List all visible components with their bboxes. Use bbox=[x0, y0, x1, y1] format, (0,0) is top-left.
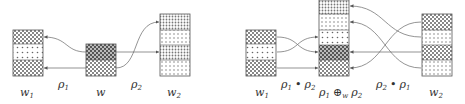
label-w2: w2 bbox=[167, 86, 181, 100]
label-rho1: ρ1 bbox=[57, 78, 69, 92]
label-w: w bbox=[96, 86, 106, 99]
label-rho1-bullet-rho2: ρ1•ρ2 bbox=[280, 78, 316, 92]
label-w1: w1 bbox=[20, 86, 34, 100]
box-w2-right bbox=[422, 14, 452, 76]
arrow-w2-b bbox=[350, 6, 421, 37]
label-rho2: ρ2 bbox=[130, 78, 142, 92]
label-merge: ρ1⊕wρ2 bbox=[318, 86, 363, 100]
box-w1 bbox=[13, 30, 43, 76]
diagram-canvas: w1 ρ1 w ρ2 w2 bbox=[0, 0, 465, 104]
arrow-w1-cross-b bbox=[277, 37, 318, 52]
label-rho2-bullet-rho1: ρ2•ρ1 bbox=[375, 78, 410, 92]
arrow-rho2-top bbox=[116, 22, 159, 68]
arrow-rho1-top bbox=[44, 37, 86, 52]
box-w2 bbox=[160, 14, 190, 76]
box-w1-right bbox=[246, 30, 276, 76]
left-diagram: w1 ρ1 w ρ2 w2 bbox=[13, 14, 190, 100]
arrow-w2-d bbox=[350, 22, 421, 68]
label-w1-right: w1 bbox=[255, 86, 269, 100]
label-w2-right: w2 bbox=[429, 86, 443, 100]
box-merge bbox=[319, 0, 349, 76]
right-diagram: w1 ρ1•ρ2 ρ1⊕wρ2 ρ2•ρ1 w2 bbox=[246, 0, 452, 100]
box-w bbox=[86, 44, 116, 76]
